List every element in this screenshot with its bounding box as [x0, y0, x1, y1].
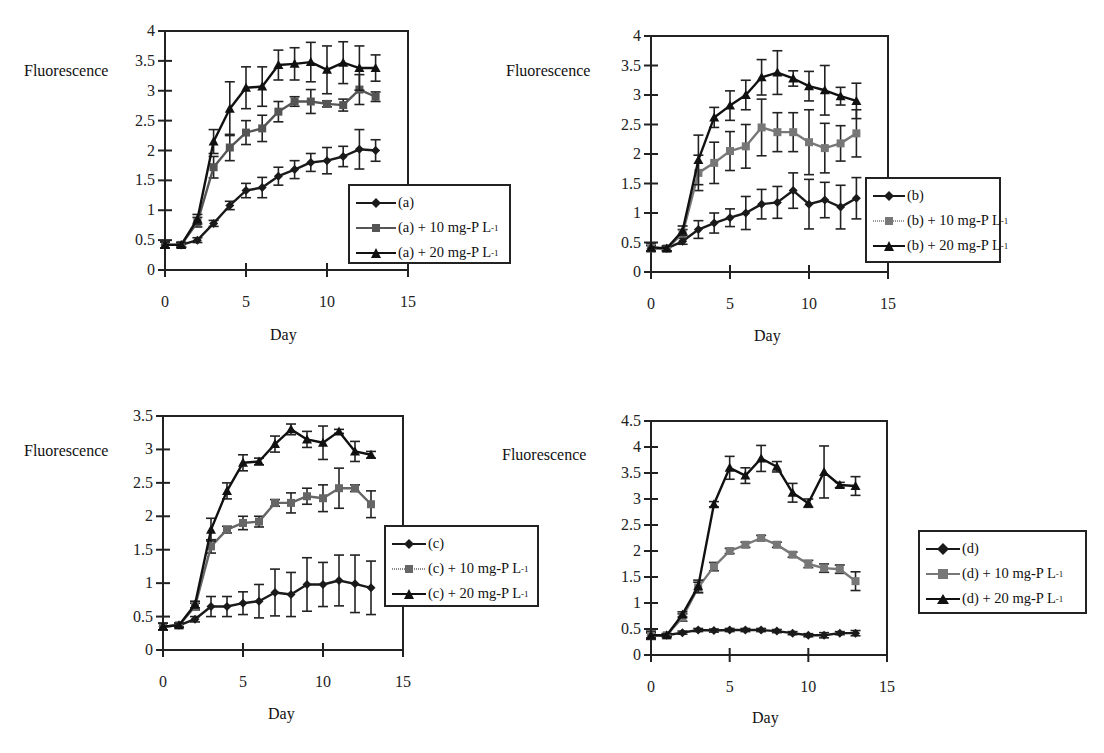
triangle-marker [772, 68, 782, 77]
triangle-marker-icon [926, 592, 960, 606]
series-b-2 [646, 51, 861, 253]
diamond-marker [239, 599, 248, 608]
square-marker [255, 518, 263, 526]
y-tick-label: 0.5 [133, 608, 153, 625]
square-marker [742, 142, 750, 150]
diamond-marker [820, 196, 829, 205]
legend-item: (a) [356, 190, 503, 215]
diamond-marker [319, 580, 328, 589]
x-tick-label: 5 [239, 673, 247, 690]
legend-item: (b) + 20 mg-P L-1 [873, 233, 993, 258]
square-marker [852, 129, 860, 137]
diamond-marker [741, 209, 750, 218]
y-tick-label: 1 [147, 201, 155, 218]
triangle-marker-icon [873, 239, 905, 253]
y-tick-label: 0 [145, 641, 153, 658]
diamond-marker-icon [873, 189, 905, 203]
diamond-marker [726, 213, 735, 222]
panel-d-plot: 00.511.522.533.544.5051015 [621, 412, 895, 695]
series-c-0 [158, 555, 376, 631]
series-d-1 [646, 534, 861, 639]
legend-item: (c) [392, 531, 531, 556]
diamond-marker [223, 602, 232, 611]
square-marker [303, 492, 311, 500]
y-tick-label: 3.5 [135, 52, 155, 69]
y-tick-label: 1 [633, 204, 641, 221]
panel-c-legend: (c) (c) + 10 mg-P L-1 (c) + 20 mg-P L-1 [384, 525, 539, 607]
y-tick-label: 0 [633, 263, 641, 280]
square-marker [287, 499, 295, 507]
legend-item: (c) + 20 mg-P L-1 [392, 581, 531, 606]
x-tick-label: 10 [801, 295, 817, 312]
y-tick-label: 2.5 [135, 112, 155, 129]
square-marker [307, 98, 315, 106]
triangle-marker [338, 58, 348, 67]
square-marker [852, 577, 860, 585]
diamond-marker [306, 158, 315, 167]
x-tick-label: 0 [647, 295, 655, 312]
panel-a-ylabel: Fluorescence [24, 62, 108, 80]
y-tick-label: 3 [147, 82, 155, 99]
legend-item: (a) + 10 mg-P L-1 [356, 215, 503, 240]
triangle-marker [725, 463, 735, 472]
square-marker-icon [926, 567, 960, 581]
triangle-marker [206, 525, 216, 534]
triangle-marker [693, 155, 703, 164]
y-tick-label: 2 [147, 142, 155, 159]
square-marker [836, 565, 844, 573]
panel-a-xlabel: Day [270, 326, 297, 344]
diamond-marker-icon [392, 537, 426, 551]
triangle-marker-icon [356, 246, 396, 260]
x-tick-label: 15 [879, 678, 895, 695]
y-tick-label: 4 [633, 27, 641, 44]
diamond-marker-icon [926, 542, 960, 556]
square-marker [271, 499, 279, 507]
diamond-marker [788, 629, 797, 638]
square-marker [319, 494, 327, 502]
diamond-marker [290, 165, 299, 174]
series-b-0 [646, 173, 861, 253]
square-marker [223, 526, 231, 534]
y-tick-label: 0.5 [621, 620, 641, 637]
x-tick-label: 5 [242, 293, 250, 310]
x-tick-label: 15 [395, 673, 411, 690]
legend-item: (d) + 10 mg-P L-1 [926, 561, 1079, 586]
square-marker [242, 129, 250, 137]
series-d-0 [646, 626, 861, 640]
square-marker-icon [873, 214, 905, 228]
square-marker [773, 128, 781, 136]
x-tick-label: 5 [726, 295, 734, 312]
square-marker [773, 541, 781, 549]
y-tick-label: 1 [145, 574, 153, 591]
diamond-marker [835, 629, 844, 638]
y-tick-label: 3.5 [133, 407, 153, 424]
x-tick-label: 10 [319, 293, 335, 310]
triangle-marker [286, 424, 296, 433]
diamond-marker [852, 194, 861, 203]
x-tick-label: 0 [647, 678, 655, 695]
square-marker [351, 484, 359, 492]
legend-item: (d) [926, 536, 1079, 561]
triangle-marker [302, 434, 312, 443]
square-marker-icon [356, 221, 396, 235]
y-tick-label: 0.5 [621, 234, 641, 251]
triangle-marker [209, 137, 219, 146]
square-marker [726, 147, 734, 155]
diamond-marker [757, 626, 766, 635]
y-tick-label: 3 [633, 86, 641, 103]
y-tick-label: 2.5 [621, 516, 641, 533]
panel-c-plot: 00.511.522.533.5051015 [133, 407, 411, 690]
square-marker [291, 98, 299, 106]
triangle-marker [222, 486, 232, 495]
panel-b-legend: (b) (b) + 10 mg-P L-1 (b) + 20 mg-P L-1 [865, 177, 1001, 263]
x-tick-label: 0 [159, 673, 167, 690]
square-marker [757, 534, 765, 542]
square-marker [789, 128, 797, 136]
square-marker [372, 93, 380, 101]
x-tick-label: 15 [400, 293, 416, 310]
diamond-marker [335, 576, 344, 585]
diamond-marker [709, 626, 718, 635]
y-tick-label: 4.5 [621, 412, 641, 429]
y-tick-label: 0.5 [135, 231, 155, 248]
square-marker [726, 547, 734, 555]
